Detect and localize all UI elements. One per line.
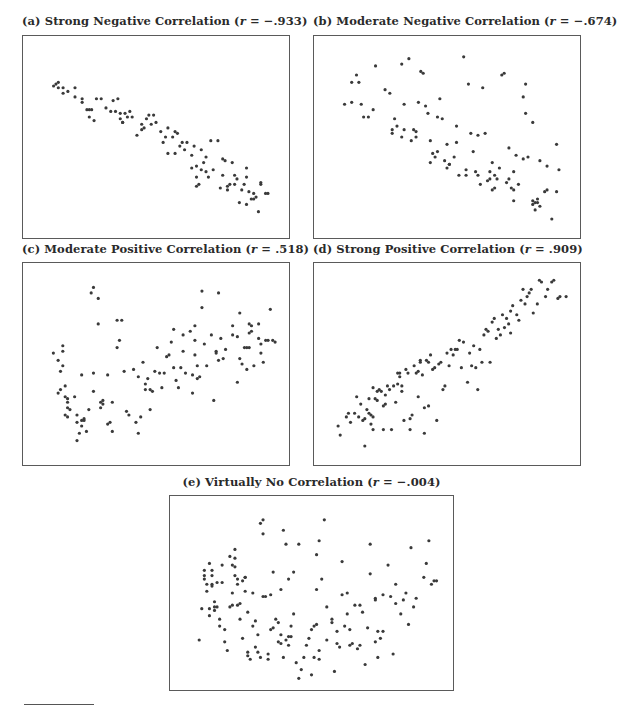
data-point (125, 410, 128, 413)
data-point (236, 583, 239, 586)
data-point (522, 157, 525, 160)
data-point (356, 647, 359, 650)
data-point (464, 174, 467, 177)
data-point (383, 88, 386, 91)
data-point (497, 328, 500, 331)
data-point (536, 197, 539, 200)
data-point (394, 583, 397, 586)
data-point (297, 543, 300, 546)
data-point (464, 168, 467, 171)
data-point (90, 291, 93, 294)
data-point (267, 652, 270, 655)
data-point (114, 110, 117, 113)
data-point (333, 670, 336, 673)
data-point (479, 183, 482, 186)
data-point (335, 642, 338, 645)
data-point (205, 364, 208, 367)
data-point (484, 132, 487, 135)
data-point (318, 539, 321, 542)
data-point (343, 103, 346, 106)
data-point (134, 421, 137, 424)
data-point (350, 101, 353, 104)
data-point (509, 310, 512, 313)
data-point (389, 595, 392, 598)
data-point (144, 382, 147, 385)
data-point (254, 645, 257, 648)
data-point (200, 148, 203, 151)
data-point (219, 186, 222, 189)
data-point (171, 135, 174, 138)
data-point (193, 353, 196, 356)
data-point (97, 322, 100, 325)
data-point (435, 579, 438, 582)
data-point (217, 291, 220, 294)
data-point (335, 630, 338, 633)
data-point (282, 656, 285, 659)
panel-d-title: (d) Strong Positive Correlation (r = .90… (313, 242, 581, 256)
data-point (320, 577, 323, 580)
panel-d-r-value: = .909) (531, 242, 583, 256)
data-point (404, 591, 407, 594)
data-point (119, 117, 122, 120)
data-point (558, 295, 561, 298)
data-point (423, 406, 426, 409)
data-point (162, 141, 165, 144)
data-point (545, 188, 548, 191)
data-point (80, 373, 83, 376)
data-point (380, 390, 383, 393)
data-point (149, 408, 152, 411)
data-point (507, 177, 510, 180)
data-point (403, 128, 406, 131)
data-point (182, 350, 185, 353)
data-point (476, 388, 479, 391)
data-point (196, 364, 199, 367)
data-point (145, 117, 148, 120)
data-point (257, 322, 260, 325)
data-point (228, 183, 231, 186)
data-point (245, 368, 248, 371)
panel-e-title-label: (e) Virtually No Correlation ( (182, 475, 372, 489)
data-point (193, 145, 196, 148)
data-point (160, 386, 163, 389)
data-point (200, 168, 203, 171)
data-point (426, 112, 429, 115)
data-point (353, 604, 356, 607)
data-point (235, 177, 238, 180)
data-point (436, 150, 439, 153)
data-point (330, 621, 333, 624)
data-point (372, 108, 375, 111)
data-point (433, 366, 436, 369)
data-point (62, 86, 65, 89)
data-point (393, 117, 396, 120)
data-point (534, 208, 537, 211)
data-point (75, 439, 78, 442)
data-point (410, 413, 413, 416)
data-point (565, 295, 568, 298)
data-point (215, 581, 218, 584)
scatter-plot-b (313, 35, 581, 239)
data-point (512, 188, 515, 191)
data-point (118, 339, 121, 342)
data-point (141, 361, 144, 364)
data-point (167, 353, 170, 356)
data-point (256, 651, 259, 654)
data-point (73, 395, 76, 398)
data-point (523, 302, 526, 305)
data-point (279, 588, 282, 591)
data-point (200, 607, 203, 610)
data-point (240, 188, 243, 191)
data-point (137, 375, 140, 378)
data-point (210, 584, 213, 587)
data-point (480, 361, 483, 364)
data-point (482, 333, 485, 336)
data-point (374, 64, 377, 67)
data-point (466, 381, 469, 384)
data-point (210, 569, 213, 572)
data-point (218, 624, 221, 627)
data-point (530, 288, 533, 291)
data-point (92, 286, 95, 289)
data-point (261, 518, 264, 521)
data-point (367, 115, 370, 118)
data-point (200, 290, 203, 293)
data-point (469, 132, 472, 135)
